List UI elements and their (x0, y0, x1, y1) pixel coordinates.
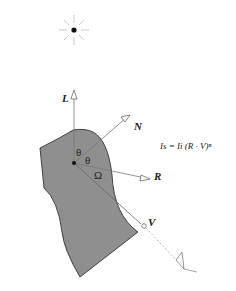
eye-icon (176, 252, 197, 272)
label-theta-1: θ (76, 146, 81, 158)
label-N: N (134, 120, 142, 132)
label-V: V (148, 216, 155, 228)
label-omega: Ω (94, 169, 102, 181)
label-theta-2: θ (85, 154, 90, 166)
phong-formula: Is = Ii (R · V)ⁿ (160, 141, 211, 151)
light-source-icon (59, 15, 89, 45)
surface-point (72, 161, 76, 165)
label-L: L (62, 92, 69, 104)
surface-patch (40, 129, 138, 277)
label-R: R (154, 170, 161, 182)
